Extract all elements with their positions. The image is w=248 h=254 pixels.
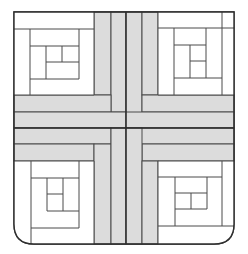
strip-bottom-right-inner (126, 128, 142, 244)
strip-right-top-inner (126, 112, 234, 128)
strip-top-right-inner (126, 12, 142, 128)
log-cabin-top-right (158, 12, 234, 95)
strip-left-top-outer (14, 95, 111, 112)
strip-top-left-inner (111, 12, 126, 112)
block-bottom-right-field (158, 161, 234, 244)
block-bottom-left-field (14, 161, 94, 244)
quilt-diagram (0, 0, 248, 254)
log-cabin-bottom-left (14, 161, 94, 244)
strip-top-right-outer (142, 12, 158, 95)
strip-right-top-outer (142, 95, 234, 112)
strip-left-bottom-inner (14, 128, 111, 144)
log-cabin-bottom-right (158, 161, 234, 244)
strip-bottom-left-inner (111, 128, 126, 244)
strip-bottom-left-outer (94, 144, 111, 244)
strip-bottom-right-outer (142, 161, 158, 244)
block-top-left-field (14, 12, 94, 95)
strip-top-left-outer (94, 12, 111, 95)
log-cabin-top-left (14, 12, 94, 95)
strip-right-bottom-outer (142, 144, 234, 161)
block-top-right-field (158, 12, 234, 95)
strip-left-top-inner (14, 112, 126, 128)
strip-left-bottom-outer (14, 144, 94, 161)
